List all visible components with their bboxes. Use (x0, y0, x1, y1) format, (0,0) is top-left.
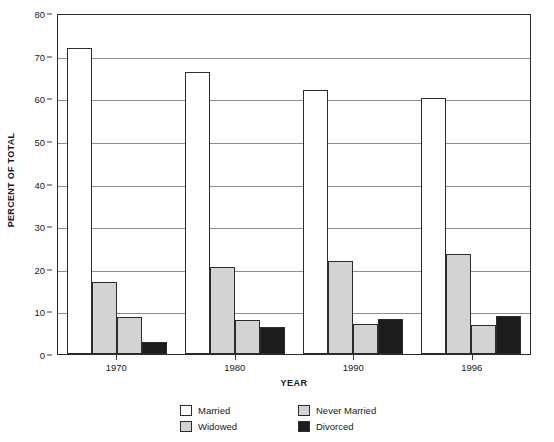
legend-item-widowed: Widowed (180, 421, 298, 432)
y-tick-mark (47, 355, 52, 356)
bar-divorced-1990 (378, 319, 403, 354)
legend-item-divorced: Divorced (298, 421, 440, 432)
chart-legend: MarriedNever MarriedWidowedDivorced (180, 402, 440, 434)
y-axis-title: PERCENT OF TOTAL (0, 0, 22, 360)
y-tick-label: 0 (40, 350, 45, 361)
x-tick-mark (353, 355, 354, 360)
bar-group-1980 (176, 15, 294, 354)
legend-label: Widowed (198, 421, 237, 432)
legend-swatch-nevermarried-icon (298, 405, 310, 416)
bar-married-1996 (421, 98, 446, 354)
plot-area (57, 14, 531, 355)
bar-widowed-1970 (92, 282, 117, 354)
bar-chart: PERCENT OF TOTAL 01020304050607080 19701… (0, 0, 554, 442)
bar-group-1996 (412, 15, 530, 354)
y-axis-title-label: PERCENT OF TOTAL (6, 133, 16, 227)
bar-group-1990 (294, 15, 412, 354)
y-tick-label: 10 (34, 307, 45, 318)
y-tick-label: 80 (34, 9, 45, 20)
x-tick-mark (116, 355, 117, 360)
bar-married-1970 (67, 48, 92, 354)
x-axis-title: YEAR (57, 378, 531, 388)
legend-label: Never Married (316, 405, 376, 416)
y-tick-mark (47, 184, 52, 185)
y-tick-mark (47, 269, 52, 270)
y-tick-label: 60 (34, 94, 45, 105)
y-tick-mark (47, 227, 52, 228)
legend-label: Divorced (316, 421, 354, 432)
legend-label: Married (198, 405, 230, 416)
y-axis-tick-labels: 01020304050607080 (22, 14, 52, 355)
bar-widowed-1996 (446, 254, 471, 354)
x-tick-mark (235, 355, 236, 360)
bar-nevermarried-1970 (117, 317, 142, 354)
x-tick-label: 1996 (461, 362, 482, 373)
y-tick-label: 70 (34, 51, 45, 62)
bar-nevermarried-1990 (353, 324, 378, 354)
bar-nevermarried-1980 (235, 320, 260, 354)
bar-married-1990 (303, 90, 328, 354)
bar-divorced-1996 (496, 316, 521, 354)
y-tick-mark (47, 141, 52, 142)
bar-nevermarried-1996 (471, 325, 496, 354)
x-tick-mark (472, 355, 473, 360)
x-tick-label: 1970 (106, 362, 127, 373)
y-tick-mark (47, 312, 52, 313)
y-tick-mark (47, 99, 52, 100)
y-tick-label: 40 (34, 179, 45, 190)
bar-divorced-1970 (142, 342, 167, 354)
bars-layer (58, 15, 530, 354)
y-tick-mark (47, 14, 52, 15)
y-tick-label: 30 (34, 222, 45, 233)
bar-widowed-1990 (328, 261, 353, 354)
legend-swatch-widowed-icon (180, 421, 192, 432)
legend-swatch-divorced-icon (298, 421, 310, 432)
bar-group-1970 (58, 15, 176, 354)
legend-swatch-married-icon (180, 405, 192, 416)
x-tick-label: 1990 (343, 362, 364, 373)
y-tick-label: 50 (34, 136, 45, 147)
y-tick-label: 20 (34, 264, 45, 275)
legend-item-nevermarried: Never Married (298, 405, 440, 416)
bar-married-1980 (185, 72, 210, 354)
legend-item-married: Married (180, 405, 298, 416)
bar-widowed-1980 (210, 267, 235, 354)
x-tick-label: 1980 (224, 362, 245, 373)
y-tick-mark (47, 56, 52, 57)
bar-divorced-1980 (260, 327, 285, 354)
